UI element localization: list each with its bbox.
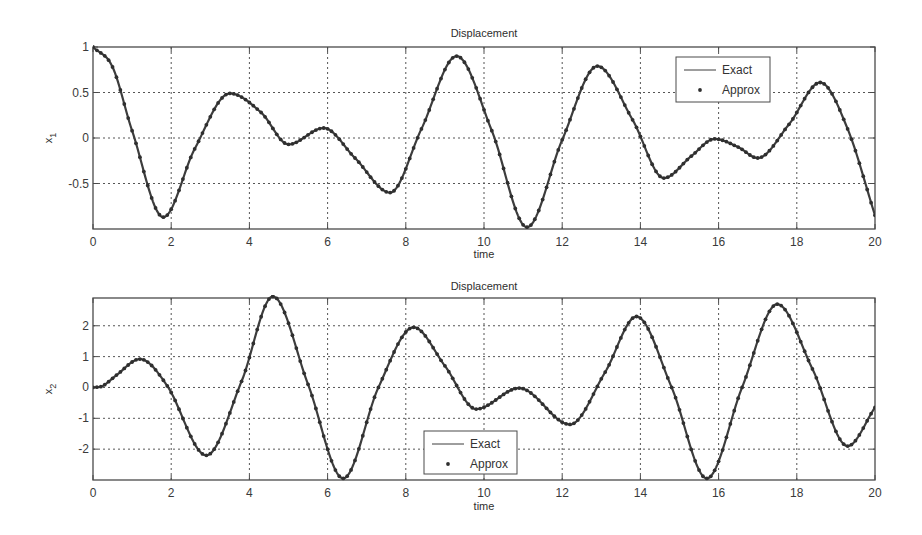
approx-marker <box>725 435 729 439</box>
approx-marker <box>189 434 193 438</box>
approx-marker <box>607 363 611 367</box>
approx-marker <box>639 134 643 138</box>
approx-marker <box>283 311 287 315</box>
approx-marker <box>549 411 553 415</box>
approx-marker <box>181 417 185 421</box>
approx-marker <box>216 440 220 444</box>
approx-marker <box>580 413 584 417</box>
approx-marker <box>498 152 502 156</box>
approx-marker <box>857 433 861 437</box>
legend-label-approx: Approx <box>722 83 760 97</box>
approx-marker <box>435 87 439 91</box>
approx-marker <box>627 321 631 325</box>
approx-marker <box>251 342 255 346</box>
approx-marker <box>728 422 732 426</box>
approx-marker <box>392 350 396 354</box>
approx-marker <box>701 143 705 147</box>
approx-marker <box>533 394 537 398</box>
approx-marker <box>861 174 865 178</box>
approx-marker <box>369 407 373 411</box>
approx-marker <box>181 177 185 181</box>
approx-marker <box>244 369 248 373</box>
approx-marker <box>408 157 412 161</box>
approx-marker <box>310 394 314 398</box>
x-tick-label: 14 <box>634 235 648 249</box>
approx-marker <box>470 406 474 410</box>
approx-marker <box>635 125 639 129</box>
approx-marker <box>193 442 197 446</box>
approx-marker <box>576 96 580 100</box>
approx-marker <box>275 132 279 136</box>
chart-title: Displacement <box>451 27 518 39</box>
approx-marker <box>165 384 169 388</box>
approx-marker <box>334 133 338 137</box>
approx-marker <box>865 419 869 423</box>
approx-marker <box>595 384 599 388</box>
approx-marker <box>689 448 693 452</box>
approx-marker <box>353 156 357 160</box>
approx-marker <box>99 385 103 389</box>
approx-marker <box>396 184 400 188</box>
approx-marker <box>623 328 627 332</box>
approx-marker <box>658 355 662 359</box>
approx-marker <box>736 396 740 400</box>
approx-marker <box>764 317 768 321</box>
approx-marker <box>666 175 670 179</box>
approx-marker <box>228 411 232 415</box>
approx-marker <box>670 386 674 390</box>
approx-marker <box>611 80 615 84</box>
approx-marker <box>314 128 318 132</box>
approx-marker <box>400 176 404 180</box>
approx-marker <box>478 97 482 101</box>
approx-marker <box>854 439 858 443</box>
approx-marker <box>787 314 791 318</box>
approx-marker <box>126 116 130 120</box>
approx-marker <box>103 383 107 387</box>
approx-marker <box>490 129 494 133</box>
approx-marker <box>204 453 208 457</box>
approx-marker <box>509 194 513 198</box>
approx-marker <box>294 140 298 144</box>
x-tick-label: 4 <box>246 235 253 249</box>
approx-marker <box>732 409 736 413</box>
approx-marker <box>615 87 619 91</box>
approx-marker <box>232 92 236 96</box>
approx-marker <box>169 391 173 395</box>
approx-marker <box>619 336 623 340</box>
approx-marker <box>869 412 873 416</box>
approx-marker <box>474 407 478 411</box>
approx-marker <box>513 387 517 391</box>
approx-marker <box>857 161 861 165</box>
approx-marker <box>588 70 592 74</box>
approx-marker <box>435 352 439 356</box>
approx-marker <box>572 421 576 425</box>
y-tick-label: 1 <box>82 350 89 364</box>
approx-marker <box>349 152 353 156</box>
approx-marker <box>357 447 361 451</box>
legend: ExactApprox <box>424 431 517 474</box>
approx-marker <box>560 138 564 142</box>
approx-marker <box>869 201 873 205</box>
approx-marker <box>552 160 556 164</box>
approx-marker <box>118 88 122 92</box>
approx-marker <box>388 359 392 363</box>
approx-marker <box>173 398 177 402</box>
approx-marker <box>380 188 384 192</box>
approx-marker <box>377 386 381 390</box>
approx-marker <box>697 468 701 472</box>
approx-marker <box>283 141 287 145</box>
x-tick-label: 18 <box>790 235 804 249</box>
approx-marker <box>689 154 693 158</box>
approx-marker <box>768 309 772 313</box>
approx-marker <box>279 302 283 306</box>
approx-marker <box>228 92 232 96</box>
approx-marker <box>525 388 529 392</box>
approx-marker <box>103 54 107 58</box>
approx-marker <box>642 144 646 148</box>
approx-marker <box>642 320 646 324</box>
approx-marker <box>721 448 725 452</box>
approx-marker <box>220 96 224 100</box>
approx-marker <box>814 376 818 380</box>
approx-marker <box>674 396 678 400</box>
approx-marker <box>580 86 584 90</box>
